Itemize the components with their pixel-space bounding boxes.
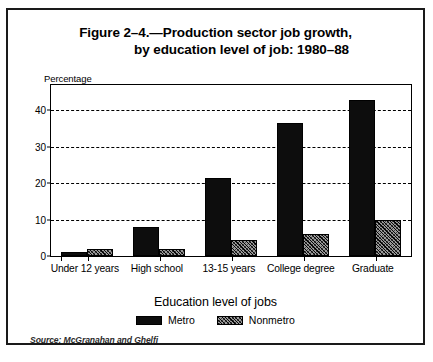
legend-entry-metro: Metro xyxy=(136,314,195,326)
bar-nonmetro-1 xyxy=(159,249,185,256)
legend-entry-nonmetro: Nonmetro xyxy=(217,314,295,326)
figure-frame: Figure 2–4.—Production sector job growth… xyxy=(6,8,425,345)
x-category-label-1: High school xyxy=(131,263,183,274)
plot-inner: 010203040Under 12 yearsHigh school13-15 … xyxy=(51,85,411,256)
x-category-label-2: 13-15 years xyxy=(202,263,255,274)
figure-title-line-1: Figure 2–4.—Production sector job growth… xyxy=(8,24,423,41)
legend-label-metro: Metro xyxy=(168,314,195,326)
x-category-label-0: Under 12 years xyxy=(51,263,119,274)
legend-label-nonmetro: Nonmetro xyxy=(249,314,295,326)
x-tick-mark-4 xyxy=(376,256,377,261)
bar-metro-4 xyxy=(349,100,375,256)
y-tick-mark-20 xyxy=(47,183,51,184)
bar-nonmetro-4 xyxy=(375,220,401,256)
bar-nonmetro-0 xyxy=(87,249,113,256)
x-category-label-4: Graduate xyxy=(352,263,394,274)
x-tick-mark-0 xyxy=(88,256,89,261)
bar-metro-2 xyxy=(205,178,231,256)
x-tick-mark-start xyxy=(61,256,62,261)
y-tick-mark-40 xyxy=(47,110,51,111)
legend-swatch-nonmetro xyxy=(217,316,243,325)
chart-legend: Metro Nonmetro xyxy=(8,314,423,326)
figure-title-line-2: by education level of job: 1980–88 xyxy=(8,41,423,58)
y-tick-mark-30 xyxy=(47,146,51,147)
bar-nonmetro-3 xyxy=(303,234,329,256)
y-tick-label-30: 30 xyxy=(35,141,46,152)
source-note: Source: McGranahan and Ghelfi xyxy=(30,335,158,345)
x-tick-mark-3 xyxy=(304,256,305,261)
bar-nonmetro-2 xyxy=(231,240,257,256)
y-tick-label-10: 10 xyxy=(35,214,46,225)
bar-metro-3 xyxy=(277,123,303,256)
x-category-label-3: College degree xyxy=(267,263,335,274)
bar-metro-1 xyxy=(133,227,159,256)
y-axis-title: Percentage xyxy=(44,73,92,84)
x-axis-title: Education level of jobs xyxy=(8,295,423,309)
y-tick-label-40: 40 xyxy=(35,105,46,116)
y-tick-mark-10 xyxy=(47,219,51,220)
plot-area: 010203040Under 12 yearsHigh school13-15 … xyxy=(50,84,412,257)
y-tick-label-0: 0 xyxy=(40,251,46,262)
y-tick-label-20: 20 xyxy=(35,178,46,189)
y-tick-mark-0 xyxy=(47,256,51,257)
x-tick-mark-2 xyxy=(232,256,233,261)
figure-title: Figure 2–4.—Production sector job growth… xyxy=(8,24,423,58)
legend-swatch-metro xyxy=(136,316,162,325)
bar-metro-0 xyxy=(61,252,87,256)
x-tick-mark-1 xyxy=(160,256,161,261)
